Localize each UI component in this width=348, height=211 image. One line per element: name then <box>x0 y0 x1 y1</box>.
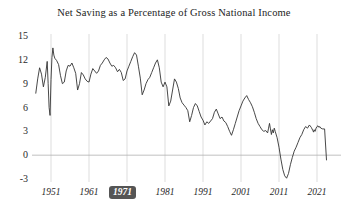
x-axis-tick-1981: 1981 <box>149 187 181 198</box>
y-axis-tick-3: 3 <box>6 126 28 136</box>
y-axis-tick-15: 15 <box>6 31 28 41</box>
x-axis-tick-1971[interactable]: 1971 <box>109 186 136 199</box>
y-axis-tick-12: 12 <box>6 55 28 65</box>
x-axis-tick-1991: 1991 <box>187 187 219 198</box>
y-axis-tick-6: 6 <box>6 103 28 113</box>
chart-figure: Net Saving as a Percentage of Gross Nati… <box>0 0 348 211</box>
x-axis-tick-1961: 1961 <box>73 187 105 198</box>
x-axis-tick-1951: 1951 <box>35 187 67 198</box>
data-line-series <box>36 48 327 178</box>
gridlines <box>51 34 317 182</box>
y-axis-tick-9: 9 <box>6 79 28 89</box>
y-axis-tick-0: 0 <box>6 150 28 160</box>
x-axis-tick-2001: 2001 <box>225 187 257 198</box>
y-axis-tick-neg3: -3 <box>6 174 28 184</box>
x-axis-tick-2011: 2011 <box>263 187 295 198</box>
x-axis-tick-2021: 2021 <box>301 187 333 198</box>
chart-plot-area <box>0 0 348 211</box>
